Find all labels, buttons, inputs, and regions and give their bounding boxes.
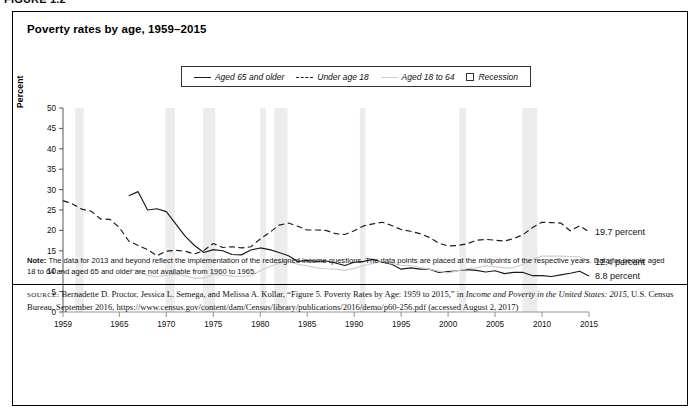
square-outline-icon [466,73,474,81]
legend-item-under-age-18: Under age 18 [296,72,369,82]
y-axis-tick-label: 30 [47,186,57,195]
figure-number-label: FIGURE 1.2 [4,0,66,5]
y-axis-tick-label: 20 [47,226,57,235]
chart-legend: Aged 65 and olderUnder age 18Aged 18 to … [181,66,531,87]
figure-page: FIGURE 1.2 Poverty rates by age, 1959–20… [0,0,700,410]
end-label-under-age-18: 19.7 percent [595,227,646,237]
recession-band [260,108,266,312]
y-axis-tick-label: 25 [47,206,57,215]
note-label: Note: [27,256,46,265]
source-divider [13,284,687,285]
source-text-a: Bernadette D. Proctor, Jessica L. Semega… [62,289,466,299]
chart-note: Note: The data for 2013 and beyond refle… [27,255,675,277]
line-dashed-icon [296,73,313,81]
series-line-under-age-18 [63,201,589,256]
x-axis-tick-label: 1995 [392,320,411,329]
legend-item-label: Aged 65 and older [215,72,284,82]
recession-band [203,108,215,312]
chart-title: Poverty rates by age, 1959–2015 [27,23,207,35]
y-axis-tick-label: 50 [47,104,57,113]
x-axis-tick-label: 1985 [298,320,317,329]
y-axis-tick-label: 40 [47,145,57,154]
figure-container: Poverty rates by age, 1959–2015 Aged 65 … [12,11,688,406]
recession-band [75,108,83,312]
x-axis-tick-label: 1959 [54,320,73,329]
x-axis-tick-label: 1975 [204,320,223,329]
recession-band [274,108,287,312]
legend-item-label: Under age 18 [317,72,369,82]
note-text: The data for 2013 and beyond reflect the… [27,256,665,276]
y-axis-tick-label: 45 [47,124,57,133]
y-axis-tick-label: 35 [47,165,57,174]
legend-item-label: Aged 18 to 64 [402,72,455,82]
recession-band [360,108,366,312]
x-axis-tick-label: 1980 [251,320,270,329]
line-solid-icon [194,73,211,81]
x-axis-tick-label: 1965 [110,320,129,329]
source-label: SOURCE: [27,291,59,299]
x-axis-tick-label: 2000 [439,320,458,329]
x-axis-tick-label: 2005 [486,320,505,329]
legend-item-label: Recession [478,72,518,82]
legend-item-recession: Recession [466,72,518,82]
legend-item-aged-65-and-older: Aged 65 and older [194,72,284,82]
x-axis-tick-label: 1990 [345,320,364,329]
recession-band [522,108,537,312]
x-axis-tick-label: 2010 [533,320,552,329]
x-axis-tick-label: 2015 [580,320,599,329]
source-publication-title: Income and Poverty in the United States:… [466,289,627,299]
y-axis-title: Percent [15,75,25,108]
recession-band [165,108,174,312]
line-light-icon [381,73,398,81]
legend-item-aged-18-to-64: Aged 18 to 64 [381,72,455,82]
chart-source: SOURCE: Bernadette D. Proctor, Jessica L… [27,289,675,313]
recession-band [459,108,466,312]
x-axis-tick-label: 1970 [157,320,176,329]
